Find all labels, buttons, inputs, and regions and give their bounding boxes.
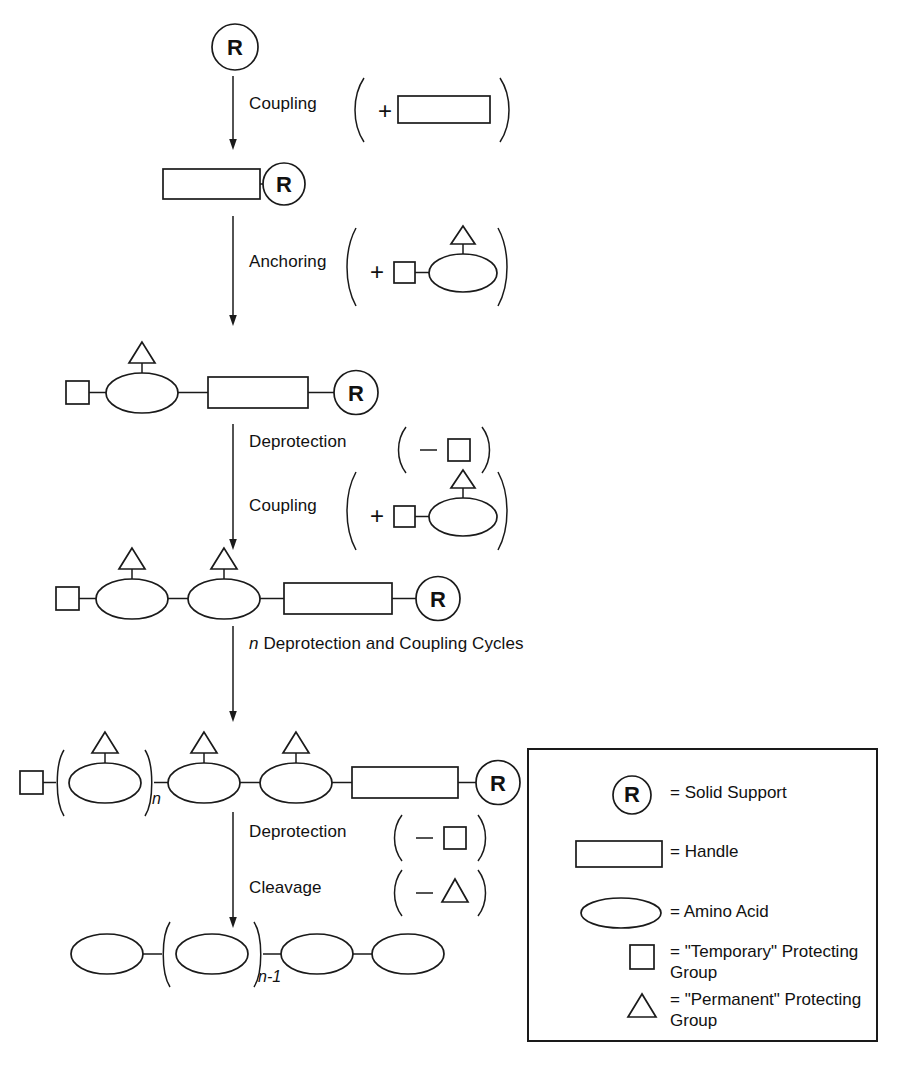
permanent-protecting-triangle — [119, 548, 145, 569]
legend-solid-support-glyph: R — [624, 782, 640, 807]
amino-acid-ellipse-icon — [577, 894, 665, 932]
legend-box: R = Solid Support = Handle = Amino Acid — [527, 748, 878, 1042]
legend-label-permanent-protecting-group: = "Permanent" Protecting Group — [670, 990, 861, 1031]
structure-handle-support: R — [160, 160, 312, 212]
diagram-canvas: R Coupling + R Anchoring — [0, 0, 902, 1077]
permanent-protecting-triangle — [442, 879, 468, 902]
permanent-protecting-triangle — [211, 548, 237, 569]
legend-label-temporary-protecting-group: = "Temporary" Protecting Group — [670, 942, 858, 983]
solid-support-label: R — [490, 771, 506, 796]
arrow-deprotection-coupling — [226, 424, 242, 552]
polymer-bracket-close — [145, 750, 152, 816]
handle-rectangle — [352, 767, 458, 798]
handle-rectangle-icon — [574, 838, 666, 870]
amino-acid-ellipse — [429, 254, 497, 292]
permanent-protecting-triangle — [451, 226, 475, 244]
polymer-bracket-open — [163, 922, 170, 987]
amino-acid-ellipse — [281, 934, 353, 974]
handle-rectangle — [284, 583, 392, 614]
amino-acid-ellipse — [260, 763, 332, 803]
temporary-protecting-square — [444, 827, 466, 849]
permanent-protecting-triangle-icon — [625, 990, 659, 1020]
n-cycles-text: Deprotection and Coupling Cycles — [259, 634, 524, 653]
amino-acid-ellipse — [168, 763, 240, 803]
plus-sign-1: + — [378, 97, 392, 124]
structure-polypeptide-resin: R — [14, 722, 484, 814]
structure-solid-support: R — [206, 18, 264, 76]
legend-label-handle: = Handle — [670, 842, 739, 863]
reagent-handle-group: + — [348, 74, 514, 146]
amino-acid-ellipse — [96, 579, 168, 619]
structure-dipeptide: R — [20, 540, 470, 620]
handle-rectangle — [208, 377, 308, 408]
temporary-protecting-square-icon — [627, 942, 657, 972]
solid-support-label: R — [227, 35, 243, 60]
solid-support-label: R — [430, 587, 446, 612]
permanent-protecting-triangle — [129, 342, 155, 363]
n-variable: n — [249, 634, 259, 653]
permanent-protecting-triangle — [283, 732, 309, 753]
plus-sign-2: + — [370, 258, 384, 285]
reagent-protected-aminoacid-1: + — [340, 222, 512, 310]
legend-label-solid-support: = Solid Support — [670, 783, 787, 804]
amino-acid-ellipse — [176, 934, 248, 974]
solid-support-label: R — [276, 172, 292, 197]
temporary-protecting-square — [66, 381, 89, 404]
amino-acid-ellipse — [188, 579, 260, 619]
arrow-deprotection-cleavage — [226, 812, 242, 930]
polymer-subscript-n-minus-1: n-1 — [258, 968, 281, 986]
step-label-anchoring: Anchoring — [249, 252, 326, 272]
arrow-anchoring — [226, 216, 242, 328]
solid-support-circle-icon: R — [609, 772, 655, 818]
step-label-coupling-1: Coupling — [249, 94, 317, 114]
temporary-protecting-square — [448, 439, 470, 461]
temporary-protecting-square — [56, 587, 79, 610]
polymer-subscript-n: n — [152, 790, 161, 808]
structure-anchored-aminoacid: R — [62, 336, 462, 414]
permanent-protecting-triangle — [451, 470, 475, 488]
temporary-protecting-square — [394, 506, 415, 527]
reagent-remove-temporary-2 — [388, 812, 494, 864]
structure-free-peptide — [60, 918, 460, 998]
step-label-deprotection-1: Deprotection — [249, 432, 347, 452]
temporary-protecting-square — [394, 262, 415, 283]
amino-acid-ellipse — [69, 763, 141, 803]
amino-acid-ellipse — [106, 373, 178, 413]
reagent-remove-permanent — [388, 866, 494, 920]
solid-support-label: R — [348, 381, 364, 406]
amino-acid-ellipse — [372, 934, 444, 974]
polymer-bracket-open — [57, 750, 64, 816]
legend-label-amino-acid: = Amino Acid — [670, 902, 769, 923]
amino-acid-ellipse — [429, 498, 497, 536]
plus-sign-3: + — [370, 502, 384, 529]
step-label-cleavage: Cleavage — [249, 878, 322, 898]
temporary-protecting-square — [20, 771, 43, 794]
step-label-coupling-2: Coupling — [249, 496, 317, 516]
step-label-n-cycles: n Deprotection and Coupling Cycles — [249, 634, 524, 654]
permanent-protecting-triangle — [92, 732, 118, 753]
amino-acid-ellipse — [71, 934, 143, 974]
permanent-protecting-triangle — [191, 732, 217, 753]
step-label-deprotection-2: Deprotection — [249, 822, 347, 842]
arrow-n-cycles — [226, 626, 242, 724]
arrow-coupling-1 — [226, 76, 242, 152]
